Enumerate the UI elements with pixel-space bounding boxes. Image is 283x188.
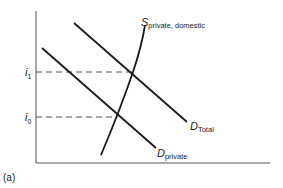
demand-total-label: DTotal xyxy=(190,120,214,134)
supply-curve xyxy=(101,25,145,155)
i1-label: i1 xyxy=(25,66,31,80)
supply-label: Sprivate, domestic xyxy=(141,16,205,30)
demand-private-label: Dprivate xyxy=(157,147,187,161)
diagram-canvas: i1 i0 Sprivate, domestic DTotal Dprivate… xyxy=(0,0,283,188)
demand-private-curve xyxy=(42,48,156,148)
panel-label: (a) xyxy=(3,172,15,183)
i0-label: i0 xyxy=(25,111,31,125)
